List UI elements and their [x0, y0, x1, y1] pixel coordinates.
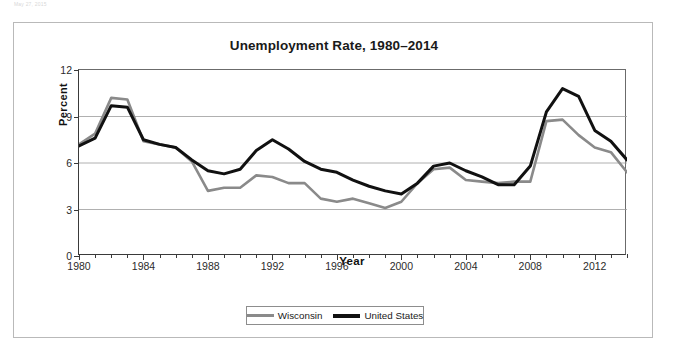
y-tick-label: 6 [66, 157, 72, 169]
y-tick-label: 9 [66, 111, 72, 123]
legend-swatch-wisconsin-icon [247, 314, 274, 317]
legend-label-wisconsin: Wisconsin [278, 310, 323, 321]
x-axis-label: Year [78, 255, 626, 267]
top-caption: May 27, 2015 [14, 1, 47, 7]
legend: Wisconsin United States [246, 306, 424, 325]
legend-item-united-states[interactable]: United States [333, 310, 423, 321]
chart-page: May 27, 2015 Unemployment Rate, 1980–201… [0, 0, 678, 356]
figure-frame: Unemployment Rate, 1980–2014 Percent 036… [13, 22, 653, 338]
legend-swatch-united-states-icon [333, 314, 360, 318]
legend-item-wisconsin[interactable]: Wisconsin [247, 310, 323, 321]
series-plot [79, 70, 627, 256]
legend-label-united-states: United States [364, 310, 423, 321]
series-line-united-states [79, 89, 627, 194]
plot-area: Percent 036912 1980198419881992199620002… [78, 69, 626, 255]
x-tick-mark [627, 254, 628, 258]
chart-title: Unemployment Rate, 1980–2014 [14, 38, 654, 53]
y-tick-label: 3 [66, 204, 72, 216]
y-tick-label: 12 [60, 64, 72, 76]
